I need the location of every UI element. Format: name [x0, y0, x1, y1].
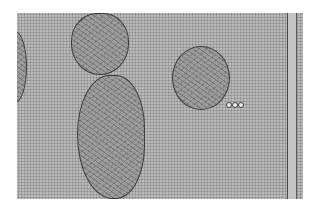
- vesicle: [238, 102, 244, 108]
- micrograph-image: [17, 13, 303, 199]
- cell-membrane: [287, 13, 297, 199]
- mitochondrion-large: [77, 75, 145, 199]
- mitochondrion-oval: [172, 46, 230, 110]
- mitochondrion-top: [71, 13, 129, 75]
- mitochondrion-left-edge: [17, 31, 27, 103]
